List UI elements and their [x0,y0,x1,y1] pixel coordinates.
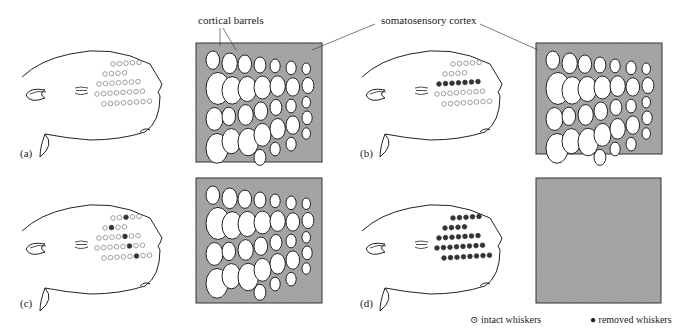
panel-label-b: (b) [360,147,373,159]
somatosensory-cortex-label: somatosensory cortex [381,14,477,26]
removed-whisker-icon: ● [590,314,596,325]
cortex-d [536,178,661,303]
rat-head-b [362,51,502,157]
figure-canvas [0,0,679,332]
legend-intact: ⊙ intact whiskers [470,314,541,325]
panel-label-a: (a) [20,147,32,159]
intact-whisker-icon: ⊙ [470,314,478,325]
legend-removed-label: removed whiskers [599,314,672,325]
whiskers-c [95,214,152,260]
panel-label-d: (d) [360,297,373,309]
panel-label-c: (c) [20,297,32,309]
rat-head-a [22,51,162,157]
whiskers-d [435,214,492,260]
rat-head-d [362,205,502,311]
whiskers-a [95,60,152,106]
cortical-barrels-label: cortical barrels [198,14,264,26]
whiskers-b [435,60,492,106]
rat-head-c [22,205,162,311]
legend-removed: ● removed whiskers [590,314,672,325]
legend-intact-label: intact whiskers [481,314,541,325]
